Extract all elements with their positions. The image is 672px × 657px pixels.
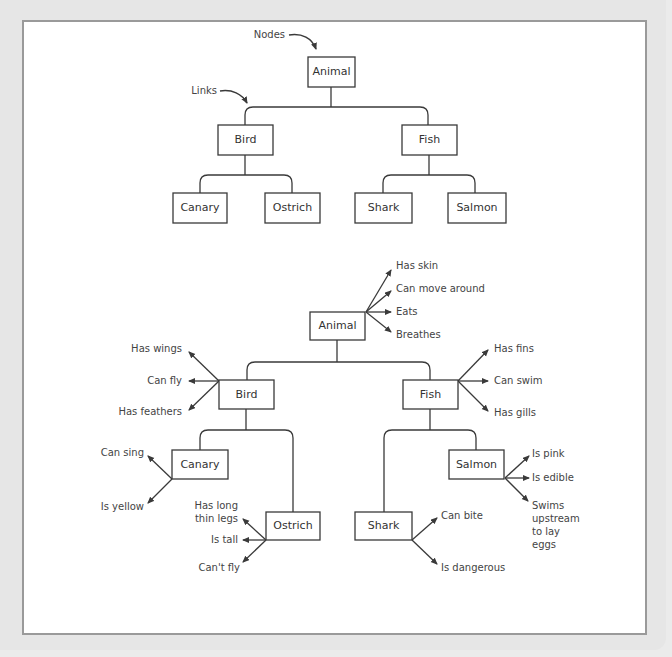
arrow-icon xyxy=(148,479,172,503)
property-label: Is dangerous xyxy=(441,562,505,573)
arrow-icon xyxy=(458,350,488,381)
arrow-icon xyxy=(366,312,391,332)
property-label: Has fins xyxy=(494,343,534,354)
link-bird-canary-ostrich xyxy=(200,175,292,193)
arrow-icon xyxy=(412,540,437,564)
node-ostrich-top: Ostrich xyxy=(265,193,320,223)
ostrich-properties: Has long thin legs Is tall Can't fly xyxy=(194,500,266,573)
property-label: Has skin xyxy=(396,260,438,271)
node-fish-top: Fish xyxy=(402,125,457,155)
arrow-icon xyxy=(366,291,391,312)
arrow-icon xyxy=(243,540,266,562)
arrow-icon xyxy=(148,456,172,479)
nodes-pointer-arrow xyxy=(289,35,316,49)
node-salmon-bottom: Salmon xyxy=(449,450,504,479)
property-label: Has wings xyxy=(131,343,182,354)
node-animal-bottom: Animal xyxy=(310,312,365,340)
node-label: Bird xyxy=(236,388,258,401)
arrow-icon xyxy=(189,381,219,410)
node-label: Shark xyxy=(368,201,400,214)
semantic-network-diagram: Nodes Links Animal Bird Fish Canary Ostr… xyxy=(0,0,672,657)
node-shark-top: Shark xyxy=(355,193,412,223)
animal-properties: Has skin Can move around Eats Breathes xyxy=(366,260,485,340)
property-label: thin legs xyxy=(195,513,238,524)
node-animal-top: Animal xyxy=(308,57,355,87)
property-label: Eats xyxy=(396,306,418,317)
links-annotation: Links xyxy=(191,85,217,96)
property-label: Can move around xyxy=(396,283,485,294)
bird-properties: Has wings Can fly Has feathers xyxy=(118,343,219,417)
node-canary-top: Canary xyxy=(173,193,227,223)
fish-properties: Has fins Can swim Has gills xyxy=(458,343,543,418)
salmon-properties: Is pink Is edible Swims upstream to lay … xyxy=(505,448,580,550)
node-salmon-top: Salmon xyxy=(448,193,506,223)
property-label: Has long xyxy=(194,500,238,511)
node-label: Shark xyxy=(368,519,400,532)
arrow-icon xyxy=(458,381,488,411)
property-label: Breathes xyxy=(396,329,441,340)
property-label: Can swim xyxy=(494,375,543,386)
property-label: Is edible xyxy=(532,472,574,483)
arrow-icon xyxy=(366,270,391,312)
links-pointer-arrow xyxy=(220,91,247,103)
arrow-icon xyxy=(412,518,437,540)
link-fish-shark-salmon xyxy=(383,175,475,193)
property-label: eggs xyxy=(532,539,556,550)
node-ostrich-bottom: Ostrich xyxy=(266,512,320,540)
node-canary-bottom: Canary xyxy=(172,450,228,479)
arrow-icon xyxy=(189,352,219,381)
node-label: Salmon xyxy=(456,458,497,471)
property-label: Has feathers xyxy=(118,406,182,417)
node-label: Animal xyxy=(318,319,356,332)
node-label: Bird xyxy=(235,133,257,146)
link-animal-bird-fish-bottom xyxy=(247,362,430,380)
node-fish-bottom: Fish xyxy=(403,380,458,409)
node-shark-bottom: Shark xyxy=(355,512,412,540)
property-label: Is tall xyxy=(211,534,238,545)
property-label: Can fly xyxy=(147,375,182,386)
arrow-icon xyxy=(505,456,529,478)
property-label: Is yellow xyxy=(101,501,144,512)
node-label: Fish xyxy=(420,388,441,401)
property-label: to lay xyxy=(532,526,560,537)
node-label: Ostrich xyxy=(273,519,312,532)
node-label: Canary xyxy=(180,458,220,471)
node-label: Canary xyxy=(180,201,220,214)
node-label: Animal xyxy=(312,65,350,78)
node-bird-top: Bird xyxy=(218,125,273,155)
property-label: Swims xyxy=(532,500,564,511)
property-label: Can bite xyxy=(441,510,483,521)
arrow-icon xyxy=(243,519,266,540)
property-label: Has gills xyxy=(494,407,536,418)
shark-properties: Can bite Is dangerous xyxy=(412,510,505,573)
node-bird-bottom: Bird xyxy=(219,380,274,409)
nodes-annotation: Nodes xyxy=(254,29,285,40)
link-animal-bird-fish xyxy=(245,107,428,125)
property-label: Can sing xyxy=(101,447,144,458)
property-label: Can't fly xyxy=(198,562,240,573)
canary-properties: Can sing Is yellow xyxy=(101,447,172,512)
node-label: Fish xyxy=(419,133,440,146)
node-label: Salmon xyxy=(456,201,497,214)
property-label: upstream xyxy=(532,513,580,524)
property-label: Is pink xyxy=(532,448,565,459)
arrow-icon xyxy=(505,478,528,501)
node-label: Ostrich xyxy=(273,201,312,214)
